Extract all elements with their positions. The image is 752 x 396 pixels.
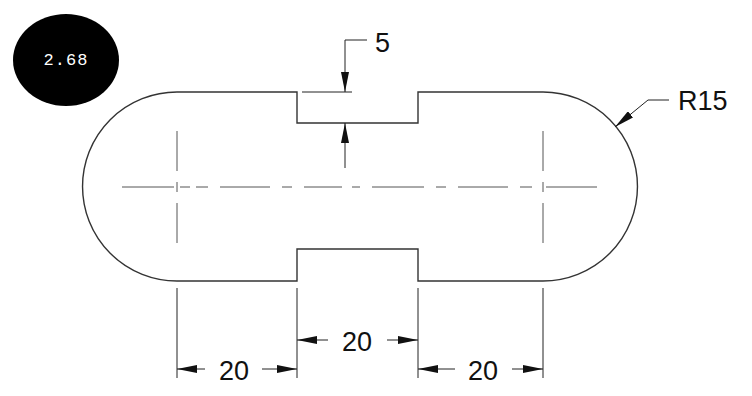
middle-length-label: 20 — [342, 327, 372, 357]
technical-drawing: 5 R15 20 20 20 — [0, 0, 752, 396]
left-length-label: 20 — [219, 356, 249, 386]
notch-depth-label: 5 — [375, 28, 390, 58]
notch-depth-dimension — [302, 40, 367, 168]
radius-label: R15 — [678, 86, 728, 116]
right-length-label: 20 — [468, 356, 498, 386]
radius-leader — [615, 100, 669, 127]
